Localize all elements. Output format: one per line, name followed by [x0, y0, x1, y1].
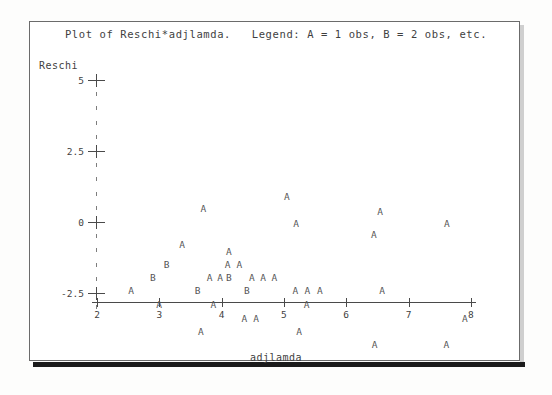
- x-tick-label: 6: [343, 309, 349, 320]
- data-point-a: A: [379, 285, 385, 296]
- data-point-a: A: [198, 326, 204, 337]
- x-tick-mark: [471, 298, 472, 307]
- data-point-a: A: [128, 285, 134, 296]
- data-point-a: A: [225, 259, 231, 270]
- data-point-a: A: [210, 299, 216, 310]
- x-tick-label: 3: [156, 309, 162, 320]
- data-point-b: B: [150, 271, 156, 282]
- data-point-a: A: [443, 339, 449, 350]
- y-minor-tick: [96, 177, 97, 181]
- data-point-a: A: [226, 245, 232, 256]
- y-tick-mark-vertical: [96, 145, 97, 158]
- data-point-a: A: [284, 190, 290, 201]
- y-minor-tick: [96, 121, 97, 125]
- data-point-a: A: [293, 217, 299, 228]
- x-tick-mark: [409, 298, 410, 307]
- data-point-a: A: [253, 312, 259, 323]
- x-tick-label: 8: [468, 309, 474, 320]
- y-minor-tick: [96, 248, 97, 252]
- data-point-a: A: [242, 312, 248, 323]
- y-axis-title: Reschi: [39, 60, 78, 71]
- data-point-a: A: [207, 271, 213, 282]
- data-point-a: A: [377, 205, 383, 216]
- y-minor-tick: [96, 263, 97, 267]
- y-tick-mark-vertical: [96, 287, 97, 300]
- data-point-a: A: [462, 312, 468, 323]
- data-point-b: B: [164, 258, 170, 269]
- y-minor-tick: [96, 92, 97, 96]
- y-tick-label: 5: [40, 75, 84, 86]
- x-tick-mark: [97, 298, 98, 307]
- data-point-b: B: [226, 271, 232, 282]
- data-point-a: A: [249, 271, 255, 282]
- data-point-a: A: [293, 285, 299, 296]
- y-tick-label: -2.5: [40, 288, 84, 299]
- x-tick-mark: [222, 298, 223, 307]
- data-point-a: A: [317, 285, 323, 296]
- data-point-a: A: [371, 229, 377, 240]
- x-tick-label: 7: [406, 309, 412, 320]
- data-point-a: A: [217, 271, 223, 282]
- y-minor-tick: [96, 277, 97, 281]
- y-tick-label: 2.5: [40, 146, 84, 157]
- data-point-a: A: [304, 285, 310, 296]
- y-minor-tick: [96, 192, 97, 196]
- plot-title: Plot of Reschi*adjlamda. Legend: A = 1 o…: [0, 28, 552, 40]
- x-axis-title: adjlamda: [0, 352, 552, 363]
- y-minor-tick: [96, 163, 97, 167]
- data-point-a: A: [271, 271, 277, 282]
- data-point-b: B: [195, 285, 201, 296]
- y-tick-mark-vertical: [96, 216, 97, 229]
- scatter-plot: Plot of Reschi*adjlamda. Legend: A = 1 o…: [0, 0, 552, 395]
- x-tick-label: 5: [281, 309, 287, 320]
- y-minor-tick: [96, 135, 97, 139]
- data-point-a: A: [444, 218, 450, 229]
- data-point-a: A: [156, 299, 162, 310]
- data-point-a: A: [304, 299, 310, 310]
- data-point-b: B: [244, 285, 250, 296]
- y-tick-label: 0: [40, 217, 84, 228]
- x-tick-mark: [346, 298, 347, 307]
- data-point-a: A: [237, 259, 243, 270]
- y-tick-mark-vertical: [96, 74, 97, 87]
- y-minor-tick: [96, 305, 97, 309]
- x-tick-label: 4: [219, 309, 225, 320]
- x-tick-label: 2: [94, 309, 100, 320]
- data-point-a: A: [179, 238, 185, 249]
- y-minor-tick: [96, 206, 97, 210]
- data-point-a: A: [296, 326, 302, 337]
- y-minor-tick: [96, 234, 97, 238]
- printout-page: Plot of Reschi*adjlamda. Legend: A = 1 o…: [0, 0, 552, 395]
- data-point-a: A: [260, 271, 266, 282]
- data-point-a: A: [200, 203, 206, 214]
- x-tick-mark: [284, 298, 285, 307]
- y-minor-tick: [96, 106, 97, 110]
- data-point-a: A: [372, 339, 378, 350]
